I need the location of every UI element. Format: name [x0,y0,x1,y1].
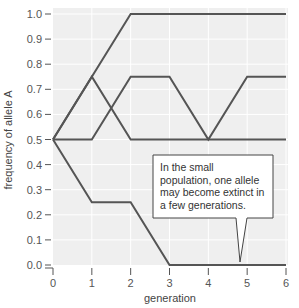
y-tick-label: 0.4 [27,159,42,171]
y-tick-label: 0.1 [27,234,42,246]
x-axis-title: generation [144,292,196,304]
x-tick-label: 0 [50,277,56,289]
x-tick-label: 3 [166,277,172,289]
x-tick-label: 5 [244,277,250,289]
y-tick-label: 0.9 [27,33,42,45]
y-tick-label: 0.0 [27,259,42,271]
callout-annotation: In the small population, one allele may … [153,155,273,218]
y-tick-label: 0.5 [27,134,42,146]
y-tick-label: 0.3 [27,184,42,196]
y-tick-label: 0.2 [27,209,42,221]
x-tick-label: 6 [283,277,289,289]
y-tick-label: 0.6 [27,108,42,120]
y-tick-label: 0.7 [27,83,42,95]
x-axis: 0123456 [45,268,289,289]
x-tick-label: 1 [89,277,95,289]
y-tick-label: 1.0 [27,8,42,20]
y-tick-label: 0.8 [27,58,42,70]
x-tick-label: 2 [128,277,134,289]
y-axis: 0.00.10.20.30.40.50.60.70.80.91.0 [27,8,51,271]
x-tick-label: 4 [205,277,211,289]
allele-frequency-chart: 0.00.10.20.30.40.50.60.70.80.91.0 012345… [0,0,299,308]
y-axis-title: frequency of allele A [2,90,14,190]
plot-background [53,8,288,265]
